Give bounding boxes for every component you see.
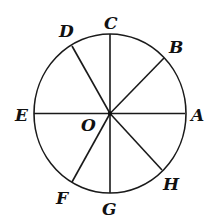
radius-OH bbox=[110, 114, 162, 171]
label-H: H bbox=[162, 174, 180, 194]
label-G: G bbox=[102, 199, 117, 219]
label-B: B bbox=[168, 37, 183, 57]
radius-OB bbox=[110, 58, 164, 114]
label-O: O bbox=[81, 115, 96, 135]
center-point bbox=[108, 111, 112, 115]
label-C: C bbox=[104, 13, 118, 33]
label-D: D bbox=[58, 21, 74, 41]
label-F: F bbox=[55, 188, 70, 208]
label-E: E bbox=[14, 105, 29, 125]
circle-diagram: A B C D E F G H O bbox=[0, 0, 214, 219]
radius-OD bbox=[72, 46, 110, 114]
label-A: A bbox=[189, 105, 204, 125]
